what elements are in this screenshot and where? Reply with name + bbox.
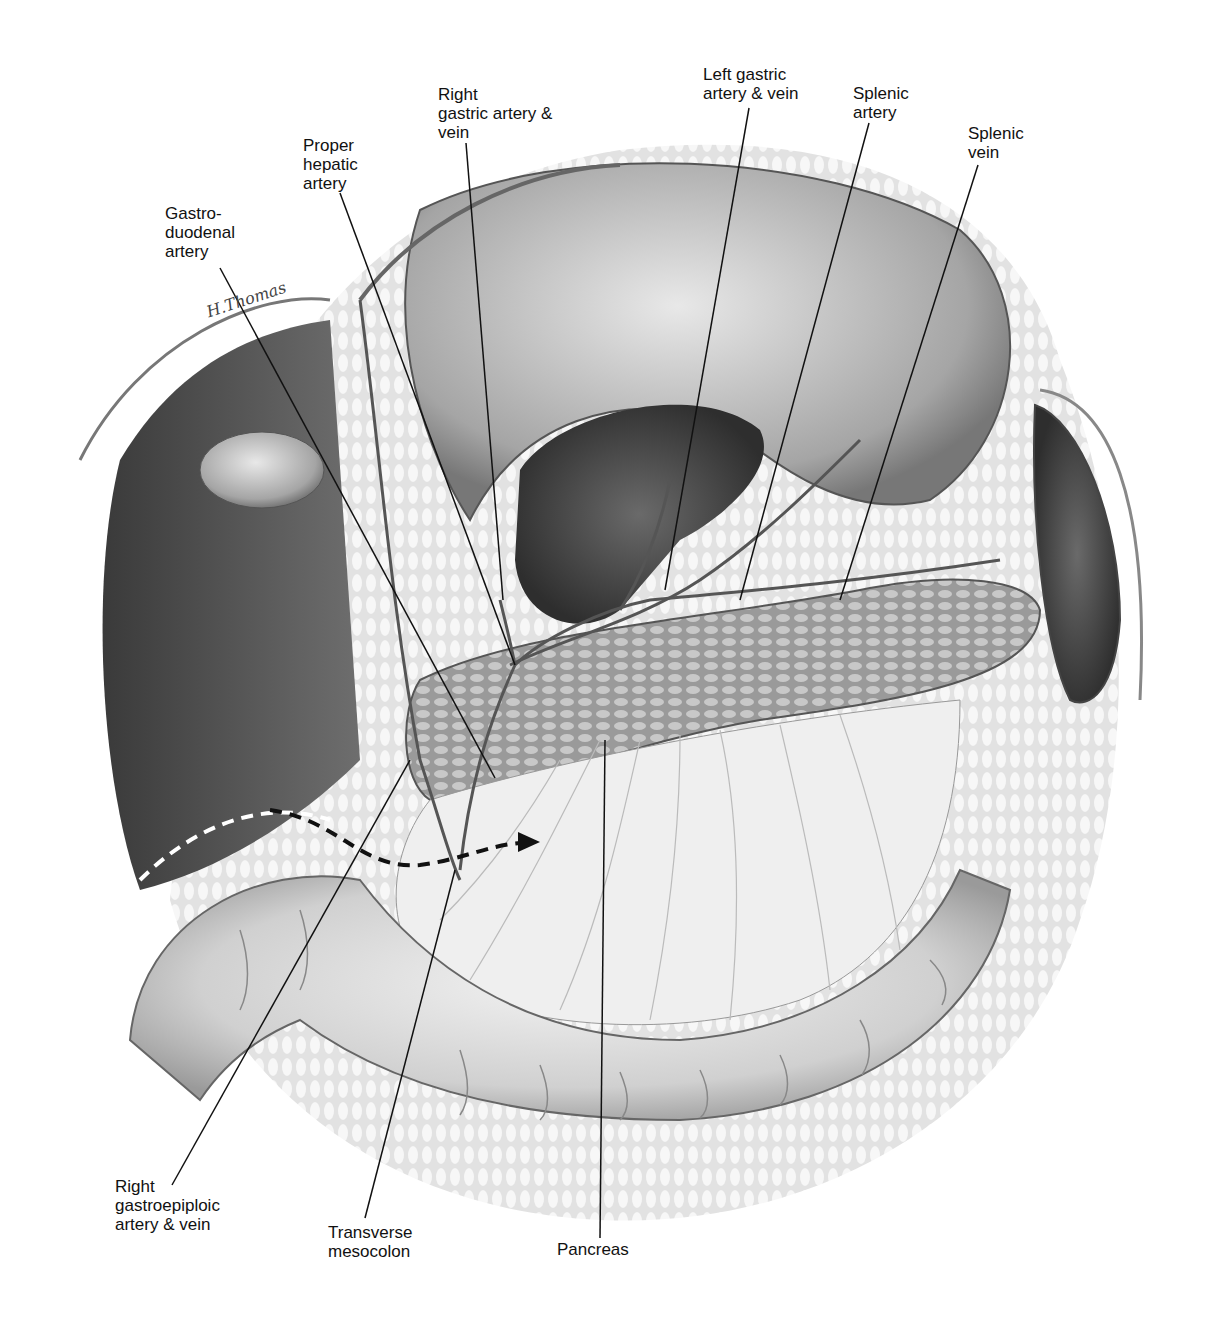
label-line: Right — [115, 1177, 220, 1196]
label-right-gastroepiploic-artery-vein: Rightgastroepiploicartery & vein — [115, 1177, 220, 1234]
label-transverse-mesocolon: Transversemesocolon — [328, 1223, 412, 1261]
label-line: Right — [438, 85, 552, 104]
label-line: Proper — [303, 136, 358, 155]
label-right-gastric-artery-vein: Rightgastric artery &vein — [438, 85, 552, 142]
gallbladder — [200, 432, 324, 508]
label-line: artery — [853, 103, 909, 122]
label-splenic-vein: Splenicvein — [968, 124, 1024, 162]
label-pancreas: Pancreas — [557, 1240, 629, 1259]
label-line: mesocolon — [328, 1242, 412, 1261]
label-splenic-artery: Splenicartery — [853, 84, 909, 122]
label-left-gastric-artery-vein: Left gastricartery & vein — [703, 65, 798, 103]
label-line: Left gastric — [703, 65, 798, 84]
label-line: hepatic — [303, 155, 358, 174]
label-line: Splenic — [968, 124, 1024, 143]
label-line: vein — [438, 123, 552, 142]
label-line: gastric artery & — [438, 104, 552, 123]
label-line: artery & vein — [703, 84, 798, 103]
label-line: Splenic — [853, 84, 909, 103]
label-line: vein — [968, 143, 1024, 162]
label-line: Transverse — [328, 1223, 412, 1242]
label-line: artery — [303, 174, 358, 193]
label-line: artery — [165, 242, 235, 261]
label-line: gastroepiploic — [115, 1196, 220, 1215]
label-gastroduodenal-artery: Gastro-duodenalartery — [165, 204, 235, 261]
label-line: duodenal — [165, 223, 235, 242]
label-line: Pancreas — [557, 1240, 629, 1259]
anatomical-illustration — [0, 0, 1207, 1332]
label-proper-hepatic-artery: Properhepaticartery — [303, 136, 358, 193]
label-line: Gastro- — [165, 204, 235, 223]
label-line: artery & vein — [115, 1215, 220, 1234]
